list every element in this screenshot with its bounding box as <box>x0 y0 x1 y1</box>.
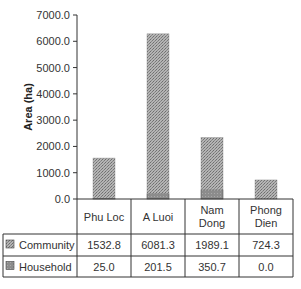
data-label-household: 201.5 <box>144 261 172 273</box>
x-category-label: Dien <box>255 217 278 229</box>
x-category-label: Nam <box>200 204 223 216</box>
bar-community <box>255 180 277 199</box>
data-label-household: 0.0 <box>258 261 273 273</box>
legend-swatch-community <box>6 240 14 248</box>
y-tick-label: 3000.0 <box>36 114 70 126</box>
data-label-community: 1532.8 <box>87 239 121 251</box>
legend-label-household: Household <box>19 261 72 273</box>
y-tick-label: 1000.0 <box>36 167 70 179</box>
y-tick-label: 0.0 <box>55 193 70 205</box>
data-table: Phu LocA LuoiNamDongPhongDienCommunity15… <box>3 199 293 277</box>
y-axis-label: Area (ha) <box>22 83 34 131</box>
y-tick-label: 5000.0 <box>36 62 70 74</box>
stacked-bar-chart: Area (ha) 0.01000.02000.03000.04000.0500… <box>0 0 301 289</box>
data-label-community: 724.3 <box>252 239 280 251</box>
y-tick-label: 4000.0 <box>36 88 70 100</box>
bar-community <box>201 137 223 189</box>
bar-community <box>93 158 115 198</box>
data-label-household: 350.7 <box>198 261 226 273</box>
bar-community <box>147 34 169 194</box>
y-tick-label: 2000.0 <box>36 140 70 152</box>
bar-household <box>201 190 223 199</box>
data-label-community: 6081.3 <box>141 239 175 251</box>
data-label-community: 1989.1 <box>195 239 229 251</box>
data-label-household: 25.0 <box>93 261 114 273</box>
y-tick-label: 6000.0 <box>36 35 70 47</box>
x-category-label: A Luoi <box>143 211 174 223</box>
x-category-label: Phu Loc <box>84 211 125 223</box>
y-tick-label: 7000.0 <box>36 9 70 21</box>
bars <box>93 34 277 199</box>
x-category-label: Phong <box>250 204 282 216</box>
bar-household <box>147 194 169 199</box>
legend-swatch-household <box>6 262 14 270</box>
y-axis: 0.01000.02000.03000.04000.05000.06000.07… <box>36 9 77 205</box>
legend-label-community: Community <box>19 239 75 251</box>
x-category-label: Dong <box>199 217 225 229</box>
